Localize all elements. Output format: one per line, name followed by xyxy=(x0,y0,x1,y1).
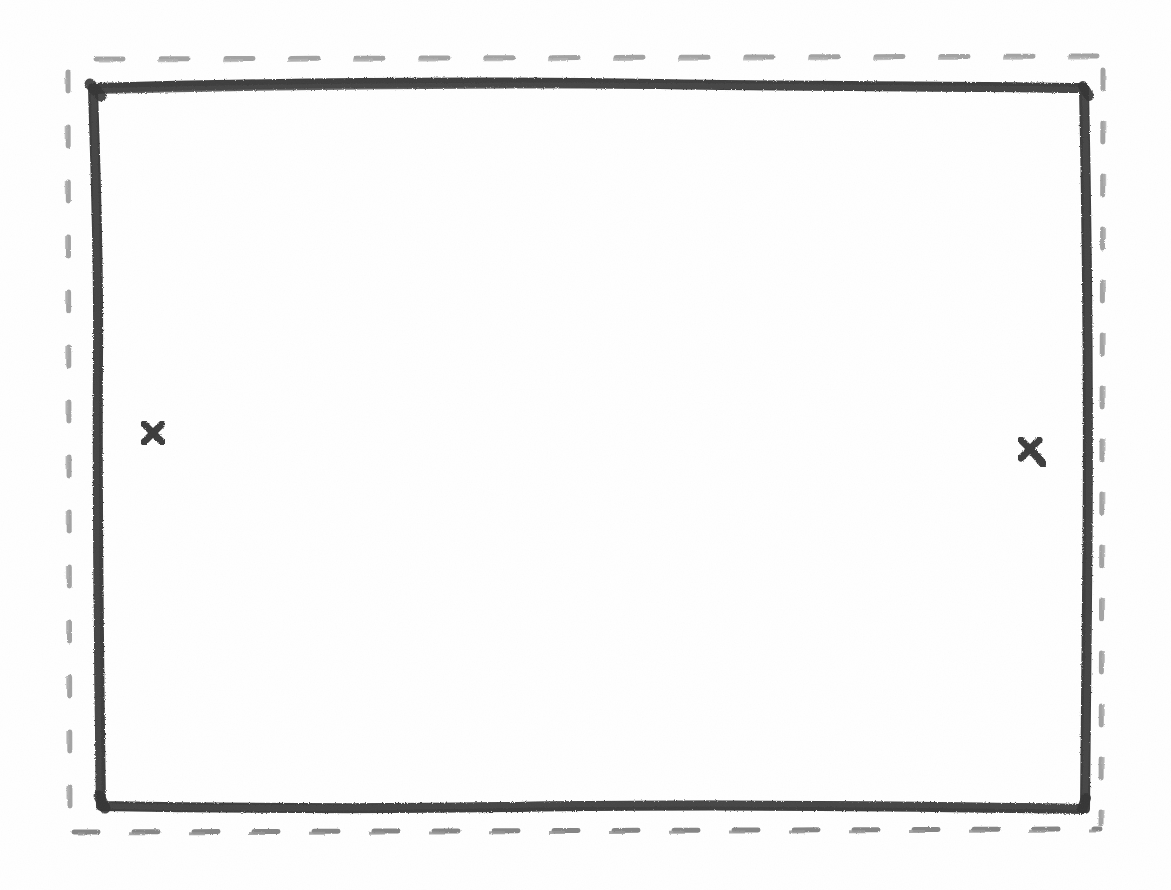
paper-grain-overlay xyxy=(0,0,1171,890)
hand-drawn-frame-illustration xyxy=(0,0,1171,890)
sketch-canvas xyxy=(0,0,1171,890)
